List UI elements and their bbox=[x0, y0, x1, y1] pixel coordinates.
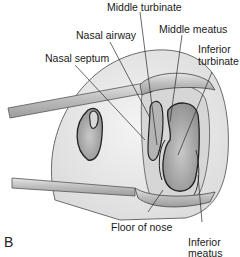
label-floor-of-nose: Floor of nose bbox=[111, 222, 172, 233]
label-nasal-airway: Nasal airway bbox=[76, 30, 136, 41]
label-middle-turbinate: Middle turbinate bbox=[107, 2, 182, 13]
label-nasal-septum: Nasal septum bbox=[45, 53, 109, 64]
label-inferior-turbinate-line2: turbinate bbox=[198, 56, 239, 67]
panel-letter: B bbox=[4, 234, 13, 250]
label-inferior-turbinate-line1: Inferior bbox=[198, 44, 231, 55]
label-inferior-meatus-line2: meatus bbox=[188, 248, 222, 257]
label-middle-meatus: Middle meatus bbox=[159, 24, 227, 35]
